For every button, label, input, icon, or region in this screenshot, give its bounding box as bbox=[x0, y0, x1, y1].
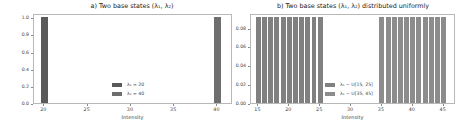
chart-title: b) Two base states (λ₁, λ₂) distributed … bbox=[253, 2, 453, 10]
x-tick-mark bbox=[288, 104, 289, 106]
bar bbox=[41, 17, 48, 103]
y-tick-label: 0.02 bbox=[226, 82, 246, 87]
y-tick-mark bbox=[31, 70, 33, 71]
x-tick-mark bbox=[350, 104, 351, 106]
y-tick-mark bbox=[248, 29, 250, 30]
x-axis-label: Intensity bbox=[323, 114, 383, 120]
x-axis-label: Intensity bbox=[103, 114, 163, 120]
legend-label: λ₁ = 20 bbox=[127, 82, 144, 87]
x-tick-label: 20 bbox=[280, 107, 296, 112]
legend-label: λ₁ = 40 bbox=[127, 91, 144, 96]
bar bbox=[281, 17, 286, 103]
bar bbox=[274, 17, 279, 103]
legend: λ₁ = 20λ₁ = 40 bbox=[112, 80, 144, 98]
chart-title: a) Two base states (λ₁, λ₂) bbox=[32, 2, 232, 10]
legend: λ₁ ~ U[15, 25]λ₁ ~ U[35, 45] bbox=[325, 80, 373, 98]
y-tick-mark bbox=[31, 18, 33, 19]
legend-swatch bbox=[112, 92, 122, 96]
bar bbox=[435, 17, 440, 103]
x-tick-mark bbox=[257, 104, 258, 106]
x-tick-label: 35 bbox=[165, 107, 181, 112]
bar bbox=[423, 17, 428, 103]
x-tick-mark bbox=[412, 104, 413, 106]
y-tick-mark bbox=[31, 87, 33, 88]
y-tick-mark bbox=[248, 104, 250, 105]
x-tick-mark bbox=[173, 104, 174, 106]
x-tick-label: 30 bbox=[122, 107, 138, 112]
legend-label: λ₁ ~ U[35, 45] bbox=[340, 91, 373, 96]
y-tick-label: 1.0 bbox=[9, 15, 29, 20]
legend-item: λ₁ ~ U[15, 25] bbox=[325, 80, 373, 89]
x-tick-mark bbox=[443, 104, 444, 106]
legend-label: λ₁ ~ U[15, 25] bbox=[340, 82, 373, 87]
x-tick-label: 15 bbox=[249, 107, 265, 112]
y-tick-mark bbox=[248, 85, 250, 86]
x-tick-mark bbox=[87, 104, 88, 106]
x-tick-mark bbox=[319, 104, 320, 106]
bar bbox=[441, 17, 446, 103]
bar bbox=[287, 17, 292, 103]
legend-item: λ₁ ~ U[35, 45] bbox=[325, 89, 373, 98]
x-tick-label: 25 bbox=[79, 107, 95, 112]
legend-item: λ₁ = 40 bbox=[112, 89, 144, 98]
bar bbox=[410, 17, 415, 103]
bar bbox=[404, 17, 409, 103]
bar bbox=[293, 17, 298, 103]
y-tick-label: 0.6 bbox=[9, 50, 29, 55]
bar bbox=[398, 17, 403, 103]
bar bbox=[318, 17, 323, 103]
x-tick-label: 20 bbox=[35, 107, 51, 112]
y-tick-label: 0.00 bbox=[226, 101, 246, 106]
y-tick-mark bbox=[31, 35, 33, 36]
x-tick-mark bbox=[43, 104, 44, 106]
y-tick-label: 0.06 bbox=[226, 44, 246, 49]
y-tick-label: 0.4 bbox=[9, 67, 29, 72]
bar bbox=[214, 17, 221, 103]
x-tick-label: 40 bbox=[208, 107, 224, 112]
x-tick-label: 30 bbox=[342, 107, 358, 112]
x-tick-label: 40 bbox=[404, 107, 420, 112]
bar bbox=[268, 17, 273, 103]
bar bbox=[305, 17, 310, 103]
legend-swatch bbox=[112, 83, 122, 87]
y-tick-mark bbox=[248, 47, 250, 48]
bar bbox=[379, 17, 384, 103]
y-tick-mark bbox=[31, 53, 33, 54]
y-tick-mark bbox=[248, 66, 250, 67]
legend-swatch bbox=[325, 92, 335, 96]
x-tick-label: 25 bbox=[311, 107, 327, 112]
legend-item: λ₁ = 20 bbox=[112, 80, 144, 89]
bar bbox=[256, 17, 261, 103]
bar bbox=[386, 17, 391, 103]
x-tick-label: 35 bbox=[373, 107, 389, 112]
legend-swatch bbox=[325, 83, 335, 87]
x-tick-mark bbox=[130, 104, 131, 106]
x-tick-mark bbox=[381, 104, 382, 106]
x-tick-mark bbox=[216, 104, 217, 106]
bar bbox=[299, 17, 304, 103]
y-tick-label: 0.04 bbox=[226, 63, 246, 68]
y-tick-label: 0.8 bbox=[9, 32, 29, 37]
x-tick-label: 45 bbox=[435, 107, 451, 112]
bar bbox=[312, 17, 317, 103]
bar bbox=[429, 17, 434, 103]
y-tick-label: 0.2 bbox=[9, 84, 29, 89]
y-tick-label: 0.0 bbox=[9, 101, 29, 106]
bar bbox=[262, 17, 267, 103]
y-tick-mark bbox=[31, 104, 33, 105]
bar bbox=[416, 17, 421, 103]
bar bbox=[392, 17, 397, 103]
y-tick-label: 0.08 bbox=[226, 26, 246, 31]
